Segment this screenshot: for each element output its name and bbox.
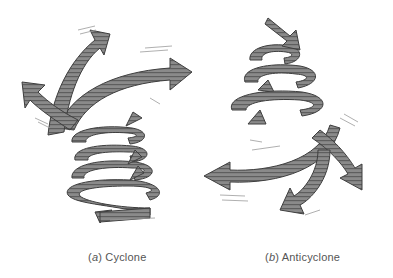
panel-letter: a xyxy=(92,251,98,263)
anticyclone-spiral-arrows-icon xyxy=(190,0,393,245)
cyclone-caption: (a) Cyclone xyxy=(88,251,146,263)
cyclone-spiral-arrows-icon xyxy=(0,0,200,245)
anticyclone-panel: (b) Anticyclone xyxy=(190,0,393,278)
panel-title: Anticyclone xyxy=(282,251,340,263)
cyclone-panel: (a) Cyclone xyxy=(0,0,200,278)
anticyclone-caption: (b) Anticyclone xyxy=(265,251,340,263)
panel-letter: b xyxy=(269,251,275,263)
panel-title: Cyclone xyxy=(105,251,146,263)
